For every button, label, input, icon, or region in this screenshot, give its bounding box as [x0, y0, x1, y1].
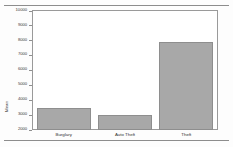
y-axis-tick-label: 4000 [18, 97, 27, 101]
bar-series [33, 11, 217, 130]
y-axis: 2000300040005000600070008000900010000 [0, 8, 32, 132]
bar-slot [94, 11, 155, 130]
x-axis-tick-label: Burglary [33, 132, 94, 137]
document-rule-bottom [4, 140, 229, 141]
y-axis-tick-label: 8000 [18, 38, 27, 42]
x-axis-tick-label: Auto Theft [94, 132, 155, 137]
y-axis-tick-label: 7000 [18, 52, 27, 56]
bar-slot [33, 11, 94, 130]
y-axis-tick-label: 6000 [18, 67, 27, 71]
bar-slot [156, 11, 217, 130]
y-axis-tick-label: 9000 [18, 23, 27, 27]
y-axis-tick-label: 3000 [18, 112, 27, 116]
bar-burglary[interactable] [37, 108, 91, 130]
y-axis-tick-label: 5000 [18, 82, 27, 86]
x-axis-labels: BurglaryAuto TheftTheft [33, 132, 217, 137]
bar-theft[interactable] [159, 42, 213, 130]
document-rule-top [4, 5, 229, 6]
y-axis-tick-label: 2000 [18, 127, 27, 131]
bar-chart-figure: Mean 20003000400050006000700080009000100… [0, 8, 233, 140]
y-axis-tick-label: 10000 [16, 8, 27, 12]
bar-auto-theft[interactable] [98, 115, 152, 130]
x-axis-tick-label: Theft [156, 132, 217, 137]
page-background: Mean 20003000400050006000700080009000100… [0, 0, 233, 147]
